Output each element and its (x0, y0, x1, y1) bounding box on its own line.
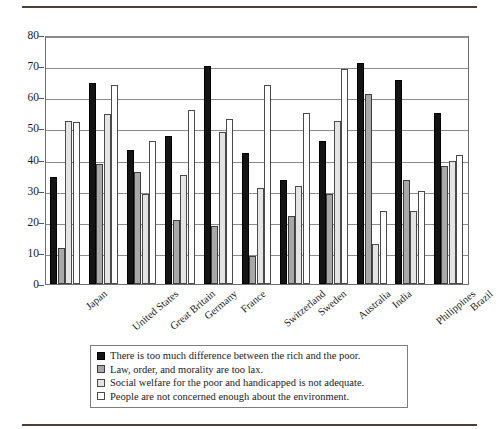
bar (211, 226, 218, 284)
chart-legend: There is too much difference between the… (90, 345, 408, 408)
legend-item: People are not concerned enough about th… (97, 390, 401, 404)
bar (365, 94, 372, 284)
x-axis-label: Australia (356, 288, 393, 321)
bar-group (434, 37, 464, 284)
bar (456, 155, 463, 284)
bar (257, 188, 264, 284)
legend-item: There is too much difference between the… (97, 349, 401, 363)
y-tick-mark (38, 161, 44, 162)
bar (288, 216, 295, 284)
y-tick-mark (38, 129, 44, 130)
bar (173, 220, 180, 284)
bar-group (280, 37, 310, 284)
bar (142, 194, 149, 284)
bottom-rule (22, 424, 477, 426)
bar (403, 180, 410, 284)
bar (326, 194, 333, 284)
plot-area (45, 36, 469, 285)
legend-label: There is too much difference between the… (110, 349, 360, 363)
bar (165, 136, 172, 284)
bar (104, 114, 111, 284)
bar (134, 172, 141, 284)
legend-swatch-icon (97, 379, 105, 387)
top-rule (22, 6, 477, 8)
bar (303, 113, 310, 284)
bar-group (357, 37, 387, 284)
bar (372, 244, 379, 284)
bar (295, 186, 302, 284)
bar-group (395, 37, 425, 284)
bar (73, 122, 80, 284)
legend-swatch-icon (97, 365, 105, 373)
bar (65, 121, 72, 284)
x-axis-labels: JapanUnited StatesGreat BritainGermanyFr… (45, 285, 469, 340)
legend-item: Social welfare for the poor and handicap… (97, 376, 401, 390)
bar (441, 166, 448, 284)
legend-item: Law, order, and morality are too lax. (97, 363, 401, 377)
bar (188, 110, 195, 284)
bar-group (165, 37, 195, 284)
bar-group (89, 37, 119, 284)
bar (219, 132, 226, 285)
x-axis-label: France (238, 288, 267, 315)
y-tick-mark (38, 254, 44, 255)
y-axis: 01020304050607080 (0, 28, 45, 293)
bar (226, 119, 233, 284)
bar (264, 85, 271, 284)
bar (89, 83, 96, 284)
figure-page: 01020304050607080 JapanUnited StatesGrea… (0, 0, 499, 429)
x-axis-label: Japan (84, 288, 109, 312)
y-tick-mark (38, 36, 44, 37)
bar (149, 141, 156, 284)
bar-group (204, 37, 234, 284)
legend-label: Law, order, and morality are too lax. (110, 363, 263, 377)
bar (96, 164, 103, 284)
bar (111, 85, 118, 284)
bar-groups (46, 37, 468, 284)
x-axis-label: India (390, 288, 414, 310)
bar-group (242, 37, 272, 284)
bar (50, 177, 57, 284)
bar (204, 66, 211, 284)
bar-group (319, 37, 349, 284)
bar (410, 211, 417, 284)
bar (449, 161, 456, 284)
legend-label: Social welfare for the poor and handicap… (110, 376, 364, 390)
y-tick-mark (38, 192, 44, 193)
bar (180, 175, 187, 284)
bar (242, 153, 249, 284)
legend-swatch-icon (97, 392, 105, 400)
bar (58, 248, 65, 284)
bar (418, 191, 425, 284)
bar (249, 256, 256, 284)
y-tick-mark (38, 67, 44, 68)
legend-label: People are not concerned enough about th… (110, 390, 349, 404)
bar (395, 80, 402, 284)
y-tick-mark (38, 285, 44, 286)
legend-swatch-icon (97, 352, 105, 360)
bar (127, 150, 134, 284)
bar (319, 141, 326, 284)
bar-group (127, 37, 157, 284)
y-tick-mark (38, 223, 44, 224)
bar (280, 180, 287, 284)
y-tick-mark (38, 98, 44, 99)
bar (434, 113, 441, 284)
bar (380, 211, 387, 284)
bar-group (50, 37, 80, 284)
bar (357, 63, 364, 284)
bar (334, 121, 341, 284)
bar (341, 69, 348, 284)
